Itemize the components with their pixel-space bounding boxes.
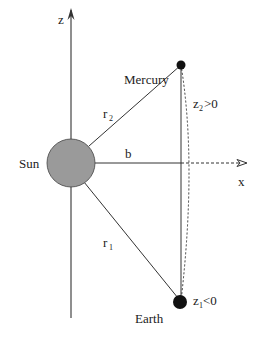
orbit-arc bbox=[181, 65, 189, 301]
mercury-icon bbox=[177, 61, 186, 70]
svg-text:r: r bbox=[103, 106, 108, 121]
sun-label: Sun bbox=[19, 156, 40, 171]
z-axis-label: z bbox=[58, 12, 64, 27]
svg-text:2: 2 bbox=[199, 104, 203, 113]
svg-text:1: 1 bbox=[109, 243, 113, 252]
svg-text:<0: <0 bbox=[203, 293, 217, 308]
x-axis-label: x bbox=[238, 174, 245, 189]
z2-condition: z 2 >0 bbox=[193, 96, 218, 113]
r1-label: r 1 bbox=[103, 235, 113, 252]
earth-icon bbox=[173, 295, 187, 309]
sun: Sun bbox=[19, 139, 95, 187]
earth: Earth bbox=[135, 295, 187, 326]
mercury: Mercury bbox=[124, 61, 186, 88]
sun-icon bbox=[47, 139, 95, 187]
svg-text:>0: >0 bbox=[204, 96, 218, 111]
r1-line bbox=[84, 182, 178, 298]
x-axis: x bbox=[181, 160, 247, 190]
svg-text:2: 2 bbox=[109, 114, 113, 123]
z1-condition: z 1 <0 bbox=[193, 293, 217, 310]
earth-label: Earth bbox=[135, 311, 164, 326]
mercury-label: Mercury bbox=[124, 72, 169, 87]
svg-text:r: r bbox=[103, 235, 108, 250]
b-label: b bbox=[125, 146, 132, 161]
sun-mercury-earth-diagram: z x Sun Mercury Earth r 2 r 1 b bbox=[0, 0, 258, 338]
r2-label: r 2 bbox=[103, 106, 113, 123]
